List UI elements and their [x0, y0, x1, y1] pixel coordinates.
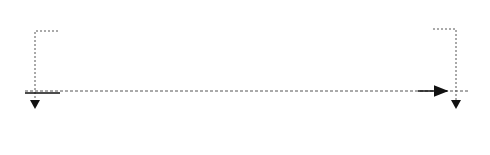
left-down-arrow-icon — [30, 100, 40, 109]
right-dashed-path — [433, 29, 456, 104]
right-down-arrow-icon — [451, 100, 461, 109]
undulator-diagram — [0, 0, 490, 155]
